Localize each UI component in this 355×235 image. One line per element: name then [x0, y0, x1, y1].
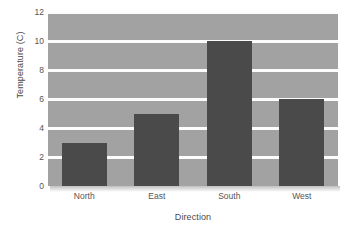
bar: [134, 114, 179, 187]
bar: [62, 143, 107, 187]
y-tick-label: 12: [2, 8, 44, 16]
x-tick-label: West: [272, 192, 332, 201]
bar-chart-figure: Temperature (C) 12 10 8 6 4 2 0 NorthEas…: [0, 0, 355, 235]
x-axis-title: Direction: [48, 212, 338, 222]
y-tick-label: 2: [2, 153, 44, 161]
gridline: [48, 69, 338, 72]
y-tick-label: 0: [2, 182, 44, 190]
y-axis-tick-labels: 12 10 8 6 4 2 0: [0, 0, 44, 235]
gridline: [48, 12, 338, 14]
plot-area: [48, 12, 338, 186]
x-tick-label: North: [54, 192, 114, 201]
gridline: [48, 40, 338, 43]
y-tick-label: 8: [2, 66, 44, 74]
y-tick-label: 10: [2, 37, 44, 45]
y-tick-label: 4: [2, 124, 44, 132]
y-tick-label: 6: [2, 95, 44, 103]
x-tick-label: East: [127, 192, 187, 201]
bar: [279, 99, 324, 186]
bar: [207, 41, 252, 186]
x-tick-label: South: [199, 192, 259, 201]
